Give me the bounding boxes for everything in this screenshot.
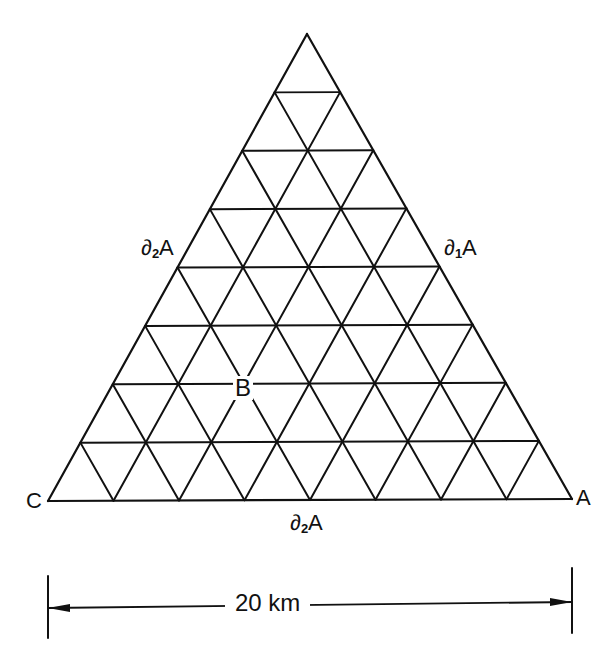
mesh-horizontal (210, 208, 407, 209)
mesh-diagonal (145, 326, 244, 500)
partial-symbol: ∂ (444, 235, 455, 260)
mesh-diagonal (80, 443, 113, 501)
set-symbol: A (462, 235, 477, 260)
mesh-diagonal (507, 441, 539, 499)
mesh-diagonal (275, 92, 507, 499)
set-symbol: A (159, 235, 174, 260)
mesh-horizontal (145, 325, 473, 326)
mesh-horizontal (80, 441, 539, 443)
triangular-mesh (0, 0, 614, 661)
left-side-label: ∂2A (141, 237, 174, 260)
mesh-horizontal (242, 150, 373, 151)
arrow-left-icon (48, 604, 70, 612)
mesh-diagonal (210, 209, 376, 500)
node-b-label: B (233, 376, 253, 400)
mesh-diagonal (245, 208, 407, 500)
scale-bar-label: 20 km (225, 591, 310, 615)
partial-symbol: ∂ (290, 510, 301, 535)
right-side-label: ∂1A (444, 237, 477, 260)
corner-c-label: C (26, 490, 42, 512)
arrow-right-icon (550, 598, 572, 606)
mesh-diagonal (114, 92, 341, 501)
mesh-horizontal (178, 267, 440, 268)
partial-symbol: ∂ (141, 235, 152, 260)
mesh-horizontal (113, 383, 506, 385)
mesh-diagonal (376, 325, 473, 500)
bottom-side-label: ∂2A (290, 512, 323, 535)
corner-a-label: A (576, 487, 591, 509)
set-symbol: A (308, 510, 323, 535)
